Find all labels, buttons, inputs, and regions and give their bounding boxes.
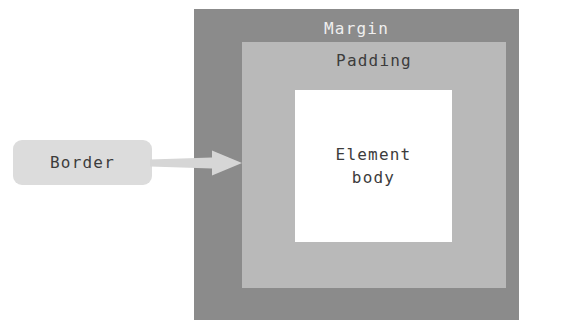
margin-label: Margin [194, 19, 519, 39]
element-body-label-line1: Element [336, 143, 412, 166]
element-body-layer: Element body [295, 90, 452, 242]
callout-arrow-icon [150, 144, 246, 182]
box-model-diagram: Margin Padding Element body Border [0, 0, 565, 335]
border-callout-box: Border [13, 140, 152, 185]
padding-label: Padding [242, 51, 506, 71]
element-body-label-line2: body [352, 166, 395, 189]
border-callout-label: Border [50, 153, 115, 173]
padding-layer: Padding Element body [242, 42, 506, 288]
